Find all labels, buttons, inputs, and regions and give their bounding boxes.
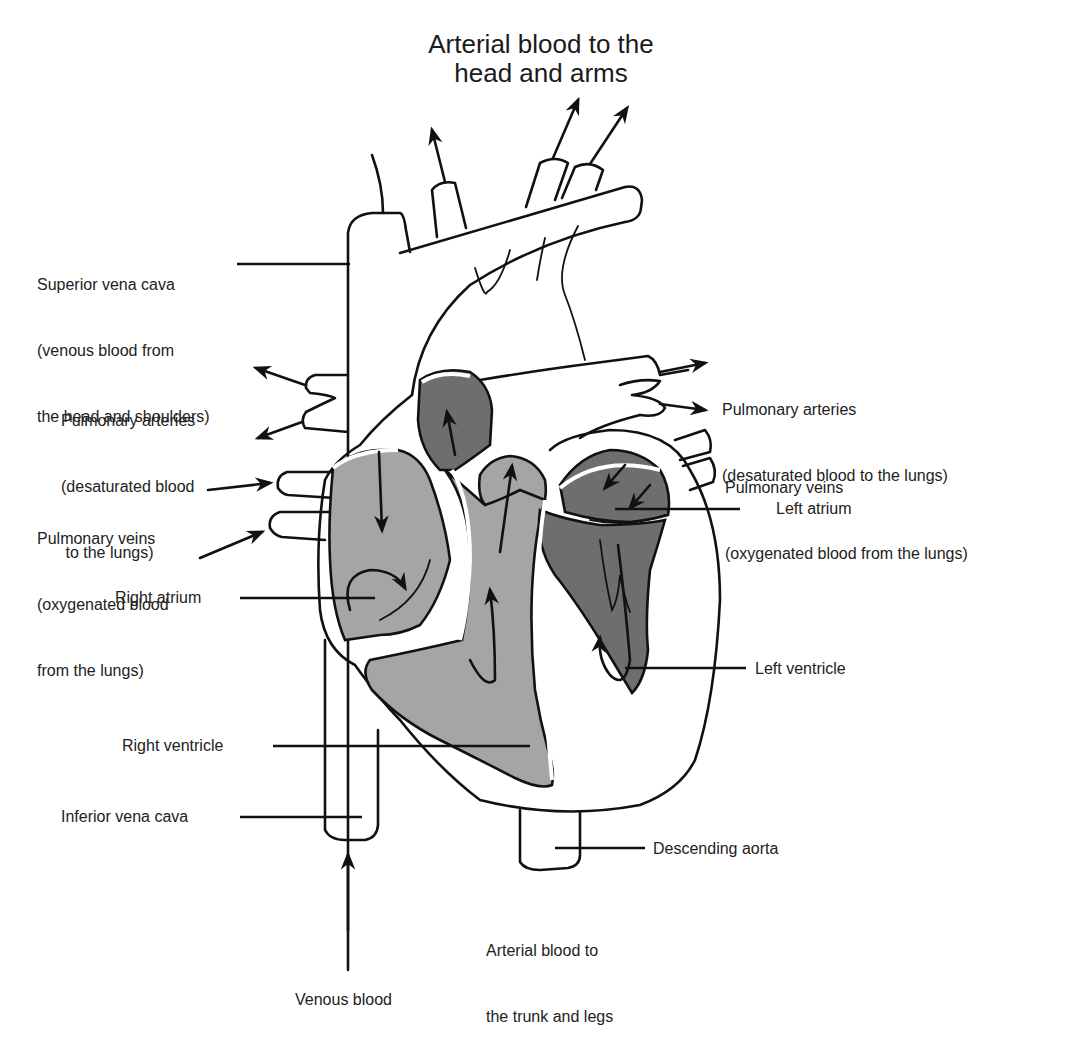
diagram-title: Arterial blood to the head and arms xyxy=(0,30,1082,88)
left-atrium-chamber xyxy=(560,450,669,522)
right-atrium-chamber xyxy=(329,450,450,640)
label-line: (venous blood from xyxy=(37,340,210,362)
descending-aorta xyxy=(520,810,580,870)
label-line: Pulmonary arteries xyxy=(61,410,195,432)
title-line-2: head and arms xyxy=(0,59,1082,88)
label-line: (oxygenated blood from the lungs) xyxy=(725,543,968,565)
chambers xyxy=(329,370,669,786)
label-line: Superior vena cava xyxy=(37,274,210,296)
label-line: the trunk and legs xyxy=(486,1006,613,1028)
label-right-ventricle: Right ventricle xyxy=(122,735,223,757)
aortic-arch xyxy=(400,187,642,395)
label-line: from the lungs) xyxy=(37,660,169,682)
label-venous-blood-trunk: Venous blood from the trunk and legs xyxy=(295,945,394,1053)
label-line: Arterial blood to xyxy=(486,940,613,962)
label-descending-aorta: Descending aorta xyxy=(653,838,778,860)
label-right-atrium: Right atrium xyxy=(115,587,201,609)
label-inferior-vena-cava: Inferior vena cava xyxy=(61,806,188,828)
label-line: Pulmonary veins xyxy=(725,477,968,499)
label-line: Pulmonary veins xyxy=(37,528,169,550)
label-line: Pulmonary arteries xyxy=(722,399,948,421)
title-line-1: Arterial blood to the xyxy=(0,30,1082,59)
label-arterial-blood-trunk: Arterial blood to the trunk and legs xyxy=(486,896,613,1050)
label-left-atrium: Left atrium xyxy=(776,498,852,520)
label-left-ventricle: Left ventricle xyxy=(755,658,846,680)
left-pulmonary-vessels xyxy=(200,368,348,558)
label-line: Venous blood xyxy=(295,989,394,1011)
left-ventricle-chamber xyxy=(539,510,665,693)
